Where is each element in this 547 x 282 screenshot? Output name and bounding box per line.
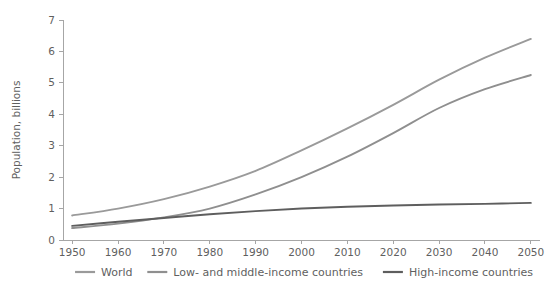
y-tick-label: 5 [48,76,55,88]
series-lines [72,39,531,228]
x-tick-label: 1980 [196,246,223,258]
series-line-2 [72,203,531,226]
y-tick-label: 0 [48,234,55,246]
x-tick-label: 2050 [517,246,544,258]
x-tick-label: 2030 [426,246,453,258]
x-tick-label: 2010 [334,246,361,258]
x-tick-label: 2020 [380,246,407,258]
x-tick-label: 2000 [288,246,315,258]
legend-label-1: Low- and middle-income countries [173,266,363,279]
y-tick-label: 6 [48,45,55,57]
x-tick-label: 1970 [151,246,178,258]
y-tick-label: 2 [48,171,55,183]
y-axis: 01234567 [48,14,63,246]
legend-label-2: High-income countries [409,266,533,279]
y-tick-label: 7 [48,14,55,26]
y-axis-title: Population, billions [10,81,22,180]
y-tick-label: 4 [48,108,55,120]
x-axis: 1950196019701980199020002010202020302040… [59,240,544,258]
x-tick-label: 1990 [242,246,269,258]
y-tick-label: 1 [48,202,55,214]
x-tick-label: 1950 [59,246,86,258]
x-tick-label: 2040 [472,246,499,258]
y-tick-label: 3 [48,139,55,151]
population-line-chart: 01234567 1950196019701980199020002010202… [0,0,547,282]
chart-legend: WorldLow- and middle-income countriesHig… [75,266,533,279]
legend-label-0: World [101,266,133,279]
series-line-0 [72,39,531,216]
x-tick-label: 1960 [105,246,132,258]
chart-canvas: 01234567 1950196019701980199020002010202… [0,0,547,282]
